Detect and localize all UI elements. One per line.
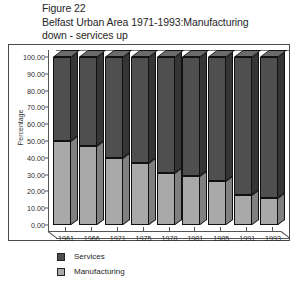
bar-segment-services[interactable] [260, 57, 278, 198]
y-axis-tick-label: 30.00 [27, 170, 45, 179]
bar-side-manufacturing [97, 141, 104, 225]
bar-segment-services[interactable] [157, 57, 175, 173]
bar-segment-manufacturing[interactable] [208, 181, 226, 225]
x-axis-tick-mark [272, 227, 273, 231]
bar-group[interactable]: 1961 [53, 57, 71, 225]
x-axis-tick-mark [143, 227, 144, 231]
y-axis-tick-mark [45, 73, 48, 74]
bar-segment-manufacturing[interactable] [182, 176, 200, 225]
x-axis-tick-mark [194, 227, 195, 231]
legend-swatch-manufacturing-icon [57, 268, 65, 276]
y-axis-tick-label: 40.00 [27, 153, 45, 162]
bar-segment-manufacturing[interactable] [157, 173, 175, 225]
x-axis-tick-mark [220, 227, 221, 231]
bar-side-services [175, 52, 182, 173]
y-axis-tick-mark [45, 107, 48, 108]
y-axis-tick-label: 0.00 [31, 221, 45, 230]
bar-segment-manufacturing[interactable] [105, 158, 123, 225]
bar-segment-manufacturing[interactable] [260, 198, 278, 225]
bar-group[interactable]: 1991 [234, 57, 252, 225]
x-axis-tick-label: 1993 [256, 234, 290, 243]
bar-side-manufacturing [278, 193, 285, 225]
plot-area: 0.0010.0020.0030.0040.0050.0060.0070.008… [48, 57, 281, 225]
y-axis-tick-label: 90.00 [27, 69, 45, 78]
bar-segment-manufacturing[interactable] [79, 146, 97, 225]
y-axis-tick-label: 50.00 [27, 137, 45, 146]
figure-title-block: Figure 22 Belfast Urban Area 1971-1993:M… [42, 2, 292, 43]
bar-segment-manufacturing[interactable] [234, 195, 252, 225]
figure-title-line-1: Belfast Urban Area 1971-1993:Manufacturi… [42, 16, 292, 30]
bar-segment-services[interactable] [79, 57, 97, 146]
y-axis-title: Percentage [17, 88, 24, 168]
bar-side-manufacturing [123, 153, 130, 225]
y-axis-tick-mark [45, 191, 48, 192]
bar-side-manufacturing [200, 171, 207, 225]
bar-segment-services[interactable] [131, 57, 149, 163]
chart-legend: Services Manufacturing [57, 249, 125, 279]
bar-segment-manufacturing[interactable] [131, 163, 149, 225]
x-axis-tick-mark [91, 227, 92, 231]
y-axis-tick-mark [45, 174, 48, 175]
figure-title-line-2: down - services up [42, 29, 292, 43]
y-axis-line [48, 50, 49, 232]
bar-side-manufacturing [175, 168, 182, 225]
bar-side-services [200, 52, 207, 177]
bar-group[interactable]: 1993 [260, 57, 278, 225]
bar-side-services [278, 52, 285, 198]
y-axis-tick-label: 100.00 [23, 53, 45, 62]
bar-side-services [252, 52, 259, 195]
bar-side-manufacturing [226, 176, 233, 225]
y-axis-tick-mark [45, 124, 48, 125]
bar-group[interactable]: 1975 [131, 57, 149, 225]
x-axis-tick-mark [169, 227, 170, 231]
bar-segment-services[interactable] [208, 57, 226, 181]
bar-segment-services[interactable] [53, 57, 71, 141]
y-axis-tick-label: 60.00 [27, 120, 45, 129]
x-axis-tick-mark [246, 227, 247, 231]
bar-segment-services[interactable] [182, 57, 200, 176]
bar-side-manufacturing [71, 136, 78, 225]
chart-frame: Percentage 0.0010.0020.0030.0040.0050.00… [8, 44, 290, 241]
x-axis-line [48, 231, 281, 232]
bar-side-services [226, 52, 233, 182]
x-axis-tick-mark [117, 227, 118, 231]
bar-group[interactable]: 1971 [105, 57, 123, 225]
bar-side-services [149, 52, 156, 163]
bar-side-manufacturing [252, 189, 259, 225]
bar-group[interactable]: 1985 [208, 57, 226, 225]
y-axis-tick-mark [45, 208, 48, 209]
y-axis-tick-mark [45, 225, 48, 226]
y-axis-tick-label: 80.00 [27, 86, 45, 95]
figure-number: Figure 22 [42, 2, 292, 16]
bar-segment-services[interactable] [105, 57, 123, 158]
bar-segment-services[interactable] [234, 57, 252, 195]
bar-group[interactable]: 1966 [79, 57, 97, 225]
y-axis-tick-mark [45, 57, 48, 58]
legend-item-services: Services [57, 249, 125, 264]
y-axis-tick-label: 20.00 [27, 187, 45, 196]
y-axis-tick-label: 70.00 [27, 103, 45, 112]
bar-segment-manufacturing[interactable] [53, 141, 71, 225]
x-axis-tick-mark [65, 227, 66, 231]
legend-swatch-services-icon [57, 253, 65, 261]
legend-label-services: Services [74, 252, 105, 261]
bar-group[interactable]: 1981 [182, 57, 200, 225]
bar-side-services [71, 52, 78, 141]
bar-side-services [97, 52, 104, 146]
y-axis-tick-mark [45, 157, 48, 158]
y-axis-tick-mark [45, 141, 48, 142]
bar-side-services [123, 52, 130, 158]
y-axis-tick-mark [45, 90, 48, 91]
bar-group[interactable]: 1978 [157, 57, 175, 225]
legend-label-manufacturing: Manufacturing [74, 267, 125, 276]
legend-item-manufacturing: Manufacturing [57, 264, 125, 279]
bar-side-manufacturing [149, 158, 156, 225]
y-axis-tick-label: 10.00 [27, 204, 45, 213]
